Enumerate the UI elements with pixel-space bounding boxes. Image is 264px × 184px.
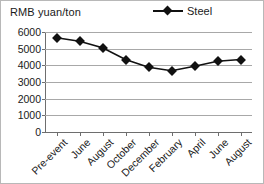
y-axis-tick-label: 4000 <box>18 59 41 71</box>
chart-legend: Steel <box>153 5 212 17</box>
x-axis-tick-labels: Pre-eventJuneAugustOctoberDecemberFebrua… <box>45 132 264 184</box>
x-axis-tick-label: Pre-event <box>28 136 69 177</box>
y-axis-tick-label: 0 <box>35 126 41 138</box>
y-axis-tick-label: 5000 <box>18 43 41 55</box>
y-axis-tick-label: 1000 <box>18 109 41 121</box>
y-axis-tick-labels: 6000500040003000200010000 <box>1 32 41 132</box>
y-axis-unit-title: RMB yuan/ton <box>10 6 81 18</box>
y-axis-tick-label: 6000 <box>18 26 41 38</box>
plot-area <box>45 32 252 132</box>
diamond-marker-icon <box>163 6 173 16</box>
y-axis-tick-label: 2000 <box>18 93 41 105</box>
y-axis-tick-label: 3000 <box>18 76 41 88</box>
x-axis-tick-label: April <box>184 136 207 159</box>
legend-label-steel: Steel <box>187 5 212 17</box>
legend-marker-steel <box>153 5 183 17</box>
series-line-steel <box>45 32 252 132</box>
steel-price-line-chart: RMB yuan/ton Steel 600050004000300020001… <box>0 0 264 184</box>
